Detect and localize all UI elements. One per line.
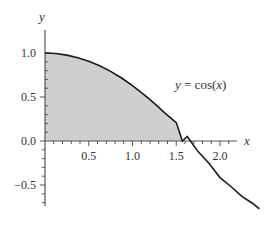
- shaded-area-under-curve: [45, 53, 182, 141]
- y-axis-label: y: [37, 9, 45, 24]
- x-tick-label: 1.0: [125, 149, 140, 163]
- curve-annotation: y = cos(x): [173, 77, 226, 92]
- x-tick-label: 0.5: [81, 149, 96, 163]
- x-tick-label: 2.0: [213, 149, 228, 163]
- x-axis-label: x: [243, 133, 250, 148]
- y-tick-label: 0.5: [21, 90, 36, 104]
- y-tick-label: 1.0: [21, 46, 36, 60]
- x-ticks: [54, 141, 229, 146]
- cosine-chart: 1.0 0.5 0.0 −0.5 0.5 1.0 1.5 2.0 y x y =…: [0, 0, 268, 227]
- y-tick-label: 0.0: [21, 134, 36, 148]
- y-tick-label: −0.5: [14, 178, 36, 192]
- x-tick-label: 1.5: [169, 149, 184, 163]
